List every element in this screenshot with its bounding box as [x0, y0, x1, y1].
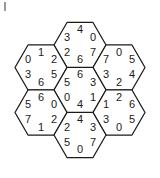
- cell-bottom-upper-left[interactable]: 2: [64, 121, 70, 133]
- cell-lower-right-upper-left[interactable]: 1: [103, 98, 109, 110]
- cell-bottom-lower-right[interactable]: 7: [90, 136, 96, 148]
- cell-center-lower-left[interactable]: 0: [64, 91, 70, 103]
- cell-lower-right-bottom[interactable]: 0: [116, 121, 122, 133]
- cell-bottom-top[interactable]: 4: [77, 113, 83, 125]
- cell-upper-left-lower-left[interactable]: 3: [25, 68, 31, 80]
- cell-top-upper-left[interactable]: 3: [64, 31, 70, 43]
- cell-upper-left-lower-right[interactable]: 5: [51, 68, 57, 80]
- cell-center-upper-right[interactable]: 3: [90, 76, 96, 88]
- cell-lower-left-upper-left[interactable]: 5: [25, 98, 31, 110]
- cell-upper-right-top[interactable]: 0: [116, 46, 122, 58]
- cell-upper-left-upper-right[interactable]: 2: [51, 53, 57, 65]
- cell-upper-left-upper-left[interactable]: 0: [25, 53, 31, 65]
- cell-lower-left-upper-right[interactable]: 0: [51, 98, 57, 110]
- cell-top-upper-right[interactable]: 0: [90, 31, 96, 43]
- cell-lower-right-upper-right[interactable]: 6: [129, 98, 135, 110]
- cell-upper-right-upper-left[interactable]: 7: [103, 53, 109, 65]
- cell-bottom-lower-left[interactable]: 5: [64, 136, 70, 148]
- cell-center-bottom[interactable]: 4: [77, 98, 83, 110]
- cell-top-lower-left[interactable]: 2: [64, 46, 70, 58]
- cell-lower-left-top[interactable]: 6: [38, 91, 44, 103]
- cell-top-top[interactable]: 4: [77, 23, 83, 35]
- cell-upper-right-lower-right[interactable]: 4: [129, 68, 135, 80]
- cell-center-upper-left[interactable]: 5: [64, 76, 70, 88]
- cell-upper-right-upper-right[interactable]: 5: [129, 53, 135, 65]
- cell-upper-right-bottom[interactable]: 2: [116, 76, 122, 88]
- hex-puzzle-canvas: 7623405630124237051405632175605031267052…: [0, 0, 160, 178]
- cell-upper-left-bottom[interactable]: 6: [38, 76, 44, 88]
- cell-upper-right-lower-left[interactable]: 3: [103, 68, 109, 80]
- cell-center-top[interactable]: 6: [77, 68, 83, 80]
- cell-upper-left-top[interactable]: 1: [38, 46, 44, 58]
- cell-lower-right-lower-left[interactable]: 3: [103, 113, 109, 125]
- cell-lower-right-lower-right[interactable]: 5: [129, 113, 135, 125]
- cell-lower-left-bottom[interactable]: 1: [38, 121, 44, 133]
- cell-center-lower-right[interactable]: 1: [90, 91, 96, 103]
- cell-lower-left-lower-right[interactable]: 2: [51, 113, 57, 125]
- hex-outline-layer: [15, 22, 145, 157]
- cell-lower-right-top[interactable]: 2: [116, 91, 122, 103]
- cell-bottom-bottom[interactable]: 0: [77, 143, 83, 155]
- cell-top-bottom[interactable]: 6: [77, 53, 83, 65]
- cell-bottom-upper-right[interactable]: 3: [90, 121, 96, 133]
- cell-lower-left-lower-left[interactable]: 7: [25, 113, 31, 125]
- hex-puzzle-board: 7623405630124237051405632175605031267052…: [0, 0, 160, 178]
- cell-top-lower-right[interactable]: 7: [90, 46, 96, 58]
